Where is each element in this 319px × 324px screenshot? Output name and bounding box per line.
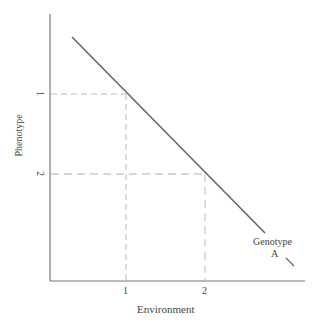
x-axis-label: Environment — [137, 303, 194, 315]
x-tick-1: 1 — [123, 285, 128, 296]
genotype-a-line — [72, 37, 265, 233]
series-label-line1: Genotype — [253, 236, 292, 247]
label-leader-line — [286, 258, 294, 266]
y-tick-1: 1 — [35, 91, 46, 96]
series-label-line2: A — [271, 248, 278, 259]
x-tick-2: 2 — [202, 285, 207, 296]
y-axis-label: Phenotype — [13, 106, 24, 166]
y-tick-2: 2 — [35, 171, 46, 176]
chart-plot — [0, 0, 319, 324]
